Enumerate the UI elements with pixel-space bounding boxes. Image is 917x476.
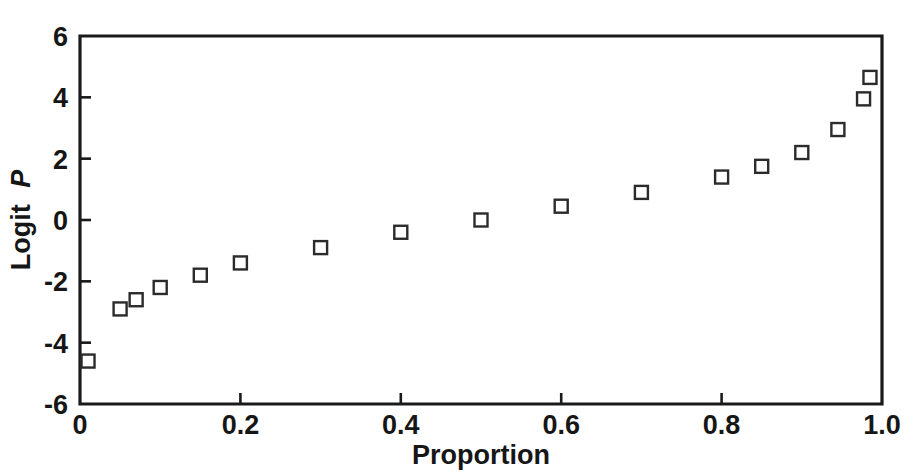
y-tick-label: 2	[53, 145, 68, 175]
plot-frame	[80, 36, 882, 404]
y-tick-label: -2	[44, 267, 68, 297]
y-axis-title-group: Logit P	[6, 169, 36, 271]
y-axis-title-text: Logit	[6, 204, 36, 270]
data-point-marker	[114, 302, 127, 315]
x-axis-tick-labels: 00.20.40.60.81.0	[72, 410, 900, 440]
x-axis-title: Proportion	[412, 440, 550, 470]
data-point-marker	[394, 226, 407, 239]
y-axis-title-variable: P	[6, 169, 36, 188]
data-point-marker	[314, 241, 327, 254]
data-point-marker	[635, 186, 648, 199]
x-axis-ticks	[240, 393, 721, 404]
data-point-marker	[831, 123, 844, 136]
x-tick-label: 0.4	[382, 410, 420, 440]
y-axis-title: Logit P	[6, 169, 36, 271]
x-tick-label: 0	[72, 410, 87, 440]
data-point-marker	[715, 171, 728, 184]
data-point-marker	[755, 160, 768, 173]
data-point-marker	[857, 92, 870, 105]
data-point-marker	[82, 355, 95, 368]
axis-frame	[80, 36, 882, 404]
y-tick-label: 4	[53, 83, 68, 113]
y-axis-ticks	[80, 97, 91, 342]
data-point-marker	[130, 293, 143, 306]
data-point-marker	[475, 214, 488, 227]
x-tick-label: 0.8	[703, 410, 741, 440]
y-tick-label: 0	[53, 206, 68, 236]
data-point-marker	[795, 146, 808, 159]
x-tick-label: 0.6	[542, 410, 580, 440]
chart-page: 00.20.40.60.81.0 -6-4-20246 Proportion L…	[0, 0, 917, 476]
y-tick-label: 6	[53, 22, 68, 52]
x-tick-label: 1.0	[863, 410, 901, 440]
data-point-marker	[555, 200, 568, 213]
data-point-markers	[82, 71, 877, 368]
x-tick-label: 0.2	[222, 410, 260, 440]
y-tick-label: -6	[44, 390, 68, 420]
y-axis-tick-labels: -6-4-20246	[44, 22, 68, 420]
scatter-plot: 00.20.40.60.81.0 -6-4-20246 Proportion L…	[0, 0, 917, 476]
data-point-marker	[234, 256, 247, 269]
y-tick-label: -4	[44, 329, 68, 359]
data-point-marker	[154, 281, 167, 294]
data-point-marker	[863, 71, 876, 84]
data-point-marker	[194, 269, 207, 282]
